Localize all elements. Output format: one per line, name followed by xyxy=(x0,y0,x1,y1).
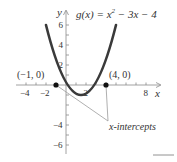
parabola-chart: −4 −2 2 8 6 4 2 −4 −6 y x g(x) = x2 − 3x… xyxy=(0,0,177,162)
x-tick-label: 8 xyxy=(144,88,149,98)
annotation-text: x-intercepts xyxy=(108,121,156,132)
y-axis-label: y xyxy=(56,6,62,18)
intercept-point-right xyxy=(103,82,108,87)
function-label: g(x) = x2 − 3x − 4 xyxy=(76,7,157,21)
intercept-point-left xyxy=(53,82,58,87)
x-axis xyxy=(16,83,161,88)
point-label-left: (−1, 0) xyxy=(17,69,44,81)
function-label-rest: − 3x − 4 xyxy=(115,8,157,20)
function-label-main: g(x) = x xyxy=(76,8,112,21)
y-tick-label: −4 xyxy=(53,120,63,130)
x-axis-label: x xyxy=(154,87,160,99)
annotation-pointers xyxy=(56,85,108,121)
y-tick-label: 6 xyxy=(59,20,64,30)
y-tick-label: −6 xyxy=(53,140,63,150)
point-label-right: (4, 0) xyxy=(109,69,131,81)
y-tick-label: 4 xyxy=(59,40,64,50)
annotation-label: x-intercepts xyxy=(108,121,156,132)
x-tick-label: −4 xyxy=(20,88,30,98)
x-tick-labels: −4 −2 2 8 xyxy=(20,88,149,98)
x-tick-label: −2 xyxy=(40,88,50,98)
